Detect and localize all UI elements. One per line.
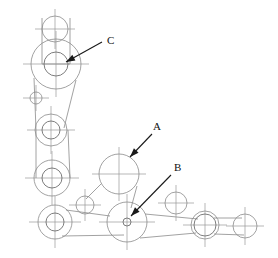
- link-bottomleft-pivot: [62, 235, 124, 236]
- center-plain-joint: [92, 147, 146, 201]
- callout-label-c: C: [107, 34, 114, 46]
- far-right-joint: [226, 207, 264, 245]
- upper-large-joint: [23, 31, 89, 97]
- callout-label-a: A: [153, 120, 161, 132]
- link-right-to-farright2: [214, 234, 244, 235]
- arrowhead-c-icon: [66, 55, 75, 62]
- bottom-left-small-joint: [69, 189, 101, 221]
- joints-group: [23, 9, 264, 250]
- mechanism-drawing-canvas: CAB: [0, 0, 278, 258]
- labels-group: CAB: [107, 34, 181, 173]
- link-pivot-to-right2: [140, 233, 196, 238]
- mid-rod-lower-joint: [25, 151, 79, 205]
- left-tiny-joint: [23, 85, 49, 111]
- link-pivot-to-right: [145, 214, 198, 219]
- callout-label-b: B: [174, 161, 181, 173]
- mechanism-svg: CAB: [0, 0, 278, 258]
- right-double-joint: [183, 203, 227, 247]
- linkage-bars-group: [34, 18, 244, 238]
- bottom-left-joint: [29, 196, 81, 248]
- lower-pivot-joint: [99, 194, 155, 250]
- link-bottomleft-pivot2: [66, 210, 110, 216]
